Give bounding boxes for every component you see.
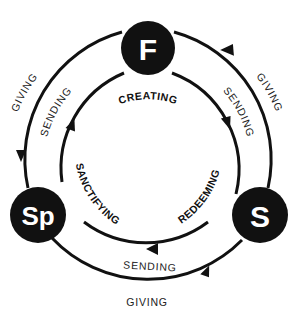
label-redeeming: REDEEMING [175,168,221,226]
outer-arc-right [174,32,271,188]
label-sanctifying: SANCTIFYING [74,162,123,227]
label-sending-bottom: SENDING [123,259,177,274]
outer-arc-left [25,32,122,188]
node-label-father: F [139,33,157,66]
trinity-cycle-diagram: F S Sp CREATING SANCTIFYING REDEEMING SE… [0,0,294,323]
node-spirit: Sp [10,187,66,243]
arrow-left-icon [146,243,158,255]
label-creating: CREATING [117,89,179,106]
label-giving-bottom: GIVING [126,296,168,308]
node-father: F [121,21,175,75]
inner-arc-bottom [84,222,208,243]
node-label-spirit: Sp [21,201,54,231]
node-son: S [232,187,288,243]
node-label-son: S [250,200,270,233]
